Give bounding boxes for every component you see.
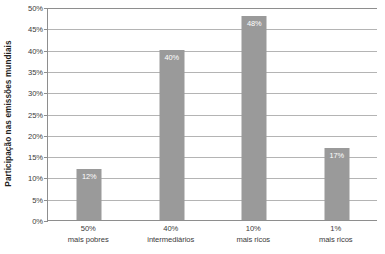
bar-chart: Participação nas emissões mundiais 0%5%1… xyxy=(0,0,385,254)
y-axis-tick-label: 15% xyxy=(28,153,43,162)
bar-slot: 12% xyxy=(48,8,131,220)
y-axis-title-text: Participação nas emissões mundiais xyxy=(4,40,13,186)
y-axis-tick-label: 50% xyxy=(28,4,43,13)
x-axis-tick-label: 50%mais pobres xyxy=(47,224,130,245)
y-axis-tick-label: 20% xyxy=(28,131,43,140)
x-axis-tick-labels: 50%mais pobres40%intermediários10%mais r… xyxy=(47,224,377,254)
x-axis-label-line1: 40% xyxy=(130,224,213,235)
bar-slot: 48% xyxy=(213,8,296,220)
y-axis-tick-label: 25% xyxy=(28,110,43,119)
y-axis-tick-label: 0% xyxy=(32,217,43,226)
x-axis-label-line1: 1% xyxy=(295,224,378,235)
bar[interactable]: 12% xyxy=(77,169,102,220)
bars-group: 12%40%48%17% xyxy=(48,8,377,220)
y-axis-tick-label: 45% xyxy=(28,25,43,34)
y-axis-tick-label: 5% xyxy=(32,195,43,204)
y-axis-tickmark xyxy=(44,221,48,222)
bar-value-label: 17% xyxy=(324,151,349,160)
x-axis-label-line1: 50% xyxy=(47,224,130,235)
bar-value-label: 40% xyxy=(159,53,184,62)
x-axis-tick-label: 1%mais ricos xyxy=(295,224,378,245)
y-axis-tick-label: 40% xyxy=(28,46,43,55)
y-axis-tick-label: 30% xyxy=(28,89,43,98)
y-axis-tick-label: 35% xyxy=(28,67,43,76)
bar[interactable]: 40% xyxy=(159,50,184,220)
x-axis-label-line2: intermediários xyxy=(130,235,213,246)
bar[interactable]: 17% xyxy=(324,148,349,220)
bar-slot: 17% xyxy=(296,8,379,220)
x-axis-label-line2: mais ricos xyxy=(295,235,378,246)
x-axis-label-line1: 10% xyxy=(212,224,295,235)
x-axis-tick-label: 40%intermediários xyxy=(130,224,213,245)
bar[interactable]: 48% xyxy=(242,16,267,220)
y-axis-tick-label: 10% xyxy=(28,174,43,183)
x-axis-tick-label: 10%mais ricos xyxy=(212,224,295,245)
bar-value-label: 48% xyxy=(242,19,267,28)
bar-value-label: 12% xyxy=(77,172,102,181)
bar-slot: 40% xyxy=(131,8,214,220)
x-axis-label-line2: mais pobres xyxy=(47,235,130,246)
y-axis-title: Participação nas emissões mundiais xyxy=(0,0,16,226)
y-axis-tick-labels: 0%5%10%15%20%25%30%35%40%45%50% xyxy=(16,8,46,221)
plot-area: 12%40%48%17% xyxy=(47,8,377,221)
x-axis-label-line2: mais ricos xyxy=(212,235,295,246)
